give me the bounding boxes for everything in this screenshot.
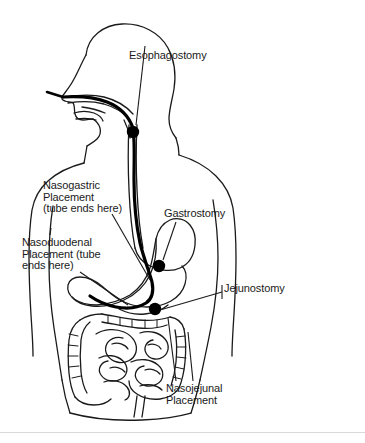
rectum-right <box>142 396 145 417</box>
face-profile <box>62 55 93 120</box>
leader-line-gastrostomy <box>163 222 176 260</box>
duodenum-loop <box>124 266 186 307</box>
label-nasogastric-line-1: Nasogastric <box>43 179 100 191</box>
rectum <box>134 396 137 417</box>
bottom-divider <box>0 432 365 433</box>
jejunostomy-stoma-dot <box>149 303 161 315</box>
gastrostomy-stoma-dot <box>153 260 165 272</box>
leader-line-jejunostomy <box>160 292 222 310</box>
transverse-colon <box>102 314 170 320</box>
label-nasogastric-line-3: (tube ends here) <box>43 202 122 214</box>
right-torso-flank <box>200 200 218 380</box>
label-nasojejunal-line-2: Placement <box>166 394 217 406</box>
feeding-tube-nose-entry <box>47 92 63 97</box>
label-nasojejunal-line-1: Nasojejunal <box>166 382 222 394</box>
label-gastrostomy-line-1: Gastrostomy <box>164 207 225 219</box>
label-esophagostomy-line-1: Esophagostomy <box>129 49 207 61</box>
pelvis-left <box>62 380 70 413</box>
ascending-colon-inner <box>80 322 90 393</box>
esophagostomy-stoma-dot <box>127 126 139 138</box>
splenic-flexure <box>170 317 184 329</box>
label-nasoduodenal-placement: NasoduodenalPlacement (tubeends here) <box>22 237 101 272</box>
jaw-chin-line <box>87 119 100 146</box>
label-nasoduodenal-line-3: ends here) <box>22 259 74 271</box>
label-nasogastric-placement: NasogastricPlacement(tube ends here) <box>43 180 122 215</box>
ascending-colon <box>68 320 80 397</box>
label-jejunostomy-line-1: Jejunostomy <box>224 282 285 294</box>
hip-bottom-line <box>70 413 191 420</box>
label-nasoduodenal-line-2: Placement (tube <box>22 248 101 260</box>
neck-front <box>84 146 87 163</box>
cecum <box>75 397 111 405</box>
right-shoulder-arm-outline <box>179 155 236 356</box>
label-esophagostomy: Esophagostomy <box>129 50 207 62</box>
hepatic-flexure <box>80 314 102 320</box>
soft-palate <box>82 107 105 113</box>
label-nasoduodenal-line-1: Nasoduodenal <box>22 236 92 248</box>
label-jejunostomy: Jejunostomy <box>224 283 285 295</box>
label-nasojejunal-placement: NasojejunalPlacement <box>166 383 222 406</box>
neck-back <box>176 138 179 155</box>
feeding-tube-placement-diagram: Esophagostomy NasogastricPlacement(tube … <box>0 0 365 443</box>
label-nasogastric-line-2: Placement <box>43 191 94 203</box>
leader-line-nasojejunal-2 <box>188 332 193 381</box>
leader-line-nasoduodenal <box>80 272 128 305</box>
leader-line-nasojejunal <box>168 318 176 381</box>
anatomy-illustration <box>0 0 365 443</box>
label-gastrostomy: Gastrostomy <box>164 208 225 220</box>
